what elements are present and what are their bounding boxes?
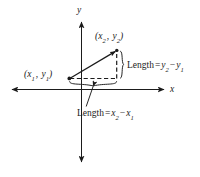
y2-subscript: 2 — [117, 37, 120, 44]
point-1-label: (x1, y1) — [24, 70, 52, 81]
hypotenuse-arrow — [71, 51, 116, 78]
horizontal-length-brace — [70, 82, 117, 86]
y2-base: y — [161, 60, 165, 70]
y-axis-label: y — [77, 6, 81, 16]
point-1-marker — [67, 77, 71, 81]
paren-close: ) — [120, 31, 123, 41]
vertical-length-brace — [121, 51, 124, 78]
figure-root: y x (x2, y2) (x1, y1) Length=y2−y1 Lengt… — [0, 0, 200, 177]
point-2-marker — [115, 49, 118, 52]
x2-subscript: 2 — [102, 37, 105, 44]
x2-subscript: 2 — [116, 114, 119, 121]
y2-subscript: 2 — [166, 66, 169, 73]
y1-subscript: 1 — [46, 75, 49, 82]
x1-subscript: 1 — [130, 114, 133, 121]
length-word: Length — [77, 108, 104, 118]
y1-subscript: 1 — [180, 66, 183, 73]
length-word: Length — [127, 60, 154, 70]
vertical-length-label: Length=y2−y1 — [127, 61, 184, 72]
point-2-label: (x2, y2) — [95, 32, 123, 43]
x-axis-label: x — [170, 85, 174, 95]
x1-subscript: 1 — [31, 75, 34, 82]
paren-close: ) — [49, 69, 52, 79]
horizontal-length-label: Length=x2−x1 — [77, 109, 134, 120]
x2-base: x — [111, 108, 115, 118]
